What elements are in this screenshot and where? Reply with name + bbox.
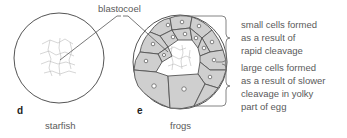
annotation-line: small cells formed [241, 18, 317, 31]
starfish-blastula [14, 13, 104, 103]
annotation-line: as a result of slower [241, 74, 325, 87]
annotation-line: part of egg [241, 100, 325, 113]
panel-letter-e: e [137, 105, 143, 116]
annotation-small-cells: small cells formed as a result of rapid … [241, 18, 317, 57]
annotation-large-cells: large cells formed as a result of slower… [241, 61, 325, 113]
annotation-line: rapid cleavage [241, 44, 317, 57]
frog-blastula [133, 15, 227, 109]
annotation-line: cleavage in yolky [241, 87, 325, 100]
annotation-line: as a result of [241, 31, 317, 44]
caption-starfish: starfish [45, 120, 76, 131]
caption-frogs: frogs [170, 120, 191, 131]
blastocoel-label: blastocoel [98, 2, 141, 15]
panel-letter-d: d [17, 105, 23, 116]
annotation-line: large cells formed [241, 61, 325, 74]
